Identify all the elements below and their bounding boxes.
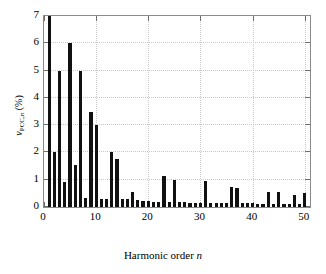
y-tick-label: 7 — [15, 9, 39, 20]
x-axis-title-text: Harmonic order — [124, 249, 194, 261]
y-tick-label: 1 — [15, 173, 39, 184]
y-tick-label: 6 — [15, 36, 39, 47]
x-tick-label: 30 — [184, 211, 214, 222]
y-axis-title-subscript: PCC, — [18, 116, 26, 131]
y-axis-title-unit: (%) — [13, 95, 24, 110]
x-axis-title-symbol: n — [197, 249, 203, 261]
tick-label-layer: 0123456701020304050 — [0, 0, 326, 274]
y-axis-title: vPCC,n (%) — [13, 61, 28, 171]
chart-figure: 0123456701020304050 Harmonic order n vPC… — [0, 0, 326, 274]
x-tick-label: 40 — [237, 211, 267, 222]
x-tick-label: 50 — [289, 211, 319, 222]
x-tick-label: 10 — [80, 211, 110, 222]
y-axis-title-wrap: vPCC,n (%) — [13, 60, 27, 170]
y-axis-title-subscript-symbol: n — [18, 113, 26, 117]
x-tick-label: 0 — [28, 211, 58, 222]
y-axis-title-symbol: v — [13, 131, 24, 135]
x-tick-label: 20 — [132, 211, 162, 222]
x-axis-title: Harmonic order n — [0, 249, 326, 261]
y-tick-label: 0 — [15, 200, 39, 211]
